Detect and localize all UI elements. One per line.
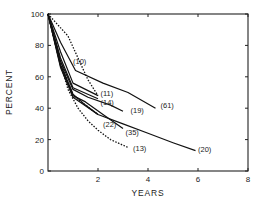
x-axis-ticks: 2468 [96, 14, 251, 184]
series-label: (20) [198, 145, 212, 154]
y-axis-title: PERCENT [4, 69, 14, 115]
x-tick-label: 4 [146, 175, 151, 184]
survival-line-chart: 020406080100 2468 (10)(11)(14)(19)(61)(2… [0, 0, 262, 204]
y-tick-label: 60 [35, 73, 44, 82]
series-label: (14) [101, 98, 115, 107]
series-line [48, 14, 123, 129]
x-tick-label: 6 [196, 175, 201, 184]
series-label: (11) [101, 89, 114, 98]
series-label: (22) [103, 120, 117, 129]
x-tick-label: 2 [96, 175, 101, 184]
y-tick-label: 40 [35, 104, 44, 113]
series-label: (13) [133, 144, 147, 153]
y-tick-label: 100 [31, 10, 45, 19]
series-label: (19) [131, 106, 145, 115]
y-tick-label: 20 [35, 136, 44, 145]
series-label: (35) [126, 128, 140, 137]
y-tick-label: 80 [35, 41, 44, 50]
series-labels: (10)(11)(14)(19)(61)(22)(35)(13)(20) [73, 57, 212, 154]
x-tick-label: 8 [246, 175, 251, 184]
y-tick-label: 0 [40, 167, 45, 176]
x-axis-title: YEARS [132, 188, 165, 198]
series-lines [48, 14, 196, 151]
series-label: (61) [161, 101, 175, 110]
series-label: (10) [73, 57, 87, 66]
